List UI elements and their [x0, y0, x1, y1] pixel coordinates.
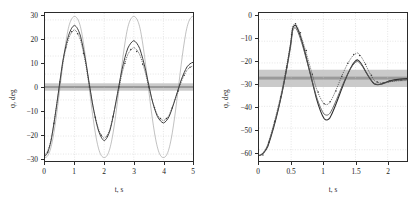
- series-step-a: [259, 25, 407, 155]
- y-tick-label: −30: [14, 156, 38, 163]
- x-tick-label: 1.5: [347, 168, 365, 175]
- y-tick-label: −30: [226, 81, 252, 88]
- x-tick-label: 1: [316, 168, 330, 175]
- x-tick-mark: [258, 162, 259, 165]
- x-tick-mark: [323, 162, 324, 165]
- y-tick-label: −60: [226, 150, 252, 157]
- chart-panel-right: φ, deg 0 −10 −20 −30 −40 −50 −60: [210, 0, 419, 213]
- y-tick-label: −20: [14, 132, 38, 139]
- plot-svg-left: [45, 13, 193, 161]
- y-tick-label: −40: [226, 104, 252, 111]
- x-tick-label: 4: [157, 168, 171, 175]
- x-tick-mark: [104, 162, 105, 165]
- y-axis-label-left: φ, deg: [9, 89, 17, 108]
- x-tick-label: 0: [251, 168, 265, 175]
- series-step-c: [259, 24, 407, 156]
- x-tick-mark: [164, 162, 165, 165]
- y-tick-label: 0: [16, 84, 38, 91]
- x-tick-mark: [193, 162, 194, 165]
- y-tick-label: 0: [228, 12, 252, 19]
- x-tick-label: 3: [127, 168, 141, 175]
- x-tick-label: 0: [37, 168, 51, 175]
- x-tick-label: 0.5: [282, 168, 300, 175]
- y-tick-label: 30: [16, 12, 38, 19]
- x-tick-label: 1: [67, 168, 81, 175]
- y-tick-label: −10: [14, 108, 38, 115]
- plot-svg-right: [259, 13, 407, 161]
- x-axis-label-right: t, s: [312, 186, 354, 194]
- y-tick-label: −50: [226, 127, 252, 134]
- x-tick-mark: [356, 162, 357, 165]
- x-tick-mark: [44, 162, 45, 165]
- y-tick-label: 20: [16, 36, 38, 43]
- chart-panel-left: φ, deg 30 20 10 0 −10 −20 −30: [0, 0, 209, 213]
- x-tick-mark: [134, 162, 135, 165]
- y-tick-label: −20: [226, 58, 252, 65]
- figure-root: φ, deg 30 20 10 0 −10 −20 −30: [0, 0, 419, 213]
- x-axis-label-left: t, s: [98, 186, 140, 194]
- x-tick-label: 2: [381, 168, 395, 175]
- plot-area-left: [44, 12, 194, 162]
- x-tick-mark: [388, 162, 389, 165]
- plot-area-right: [258, 12, 408, 162]
- x-tick-label: 5: [186, 168, 200, 175]
- series-damped-b-markers: [47, 31, 191, 153]
- y-tick-label: −10: [226, 35, 252, 42]
- x-tick-mark: [291, 162, 292, 165]
- y-tick-label: 10: [16, 60, 38, 67]
- x-tick-mark: [74, 162, 75, 165]
- x-tick-label: 2: [97, 168, 111, 175]
- tolerance-band-center-line: [259, 77, 407, 80]
